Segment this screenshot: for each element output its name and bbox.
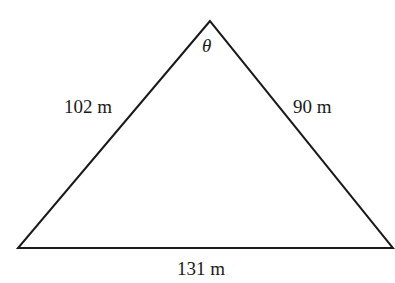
- base-length-label: 131 m: [177, 259, 225, 278]
- left-side-length-label: 102 m: [64, 97, 112, 116]
- triangle-diagram: θ 102 m 90 m 131 m: [0, 0, 395, 283]
- triangle-shape: [0, 0, 395, 283]
- right-side-length-label: 90 m: [293, 97, 332, 116]
- angle-theta-label: θ: [202, 36, 211, 55]
